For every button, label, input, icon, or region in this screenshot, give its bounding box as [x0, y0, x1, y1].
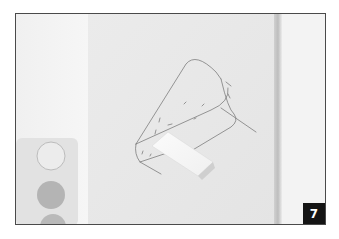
watercolor-palette: [16, 138, 78, 225]
photo-frame: 7: [15, 13, 326, 225]
step-number-badge: 7: [303, 203, 325, 224]
sketch-photo: [16, 14, 326, 225]
